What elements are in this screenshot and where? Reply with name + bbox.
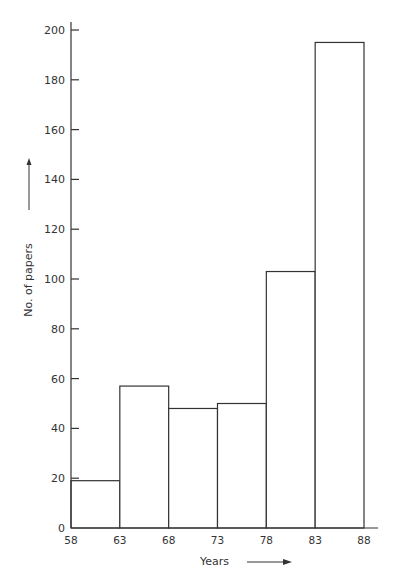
histogram-bar [71, 481, 120, 528]
histogram-bar [169, 408, 218, 528]
y-tick-label: 140 [44, 173, 65, 186]
y-tick-label: 200 [44, 24, 65, 37]
x-tick-label: 83 [308, 534, 321, 546]
y-axis-label: No. of papers [22, 243, 35, 317]
histogram-bar [120, 386, 169, 528]
y-label-arrowhead-icon [27, 158, 32, 165]
histogram-bar [266, 272, 315, 528]
y-tick-label: 80 [51, 323, 65, 336]
x-tick-label: 78 [260, 534, 273, 546]
y-tick-label: 20 [51, 472, 65, 485]
histogram-bar [315, 42, 364, 528]
x-tick-label: 63 [113, 534, 126, 546]
x-label-arrowhead-icon [283, 559, 292, 565]
bars [71, 42, 364, 528]
histogram-bar [218, 404, 267, 529]
y-ticks: 020406080100120140160180200 [44, 24, 79, 535]
x-tick-label: 68 [162, 534, 175, 546]
y-tick-label: 180 [44, 74, 65, 87]
y-tick-label: 120 [44, 223, 65, 236]
x-ticks: 58636873788388 [64, 534, 370, 546]
x-axis-label: Years [199, 555, 229, 568]
y-tick-label: 160 [44, 124, 65, 137]
x-tick-label: 73 [211, 534, 224, 546]
x-tick-label: 58 [64, 534, 77, 546]
y-tick-label: 40 [51, 422, 65, 435]
histogram-chart: 020406080100120140160180200 586368737883… [0, 0, 396, 588]
y-tick-label: 100 [44, 273, 65, 286]
x-tick-label: 88 [357, 534, 370, 546]
y-tick-label: 60 [51, 373, 65, 386]
